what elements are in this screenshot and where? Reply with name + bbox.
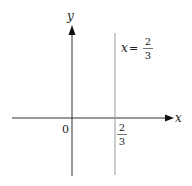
coordinate-diagram: x y 0 x = 2 3 2 3	[0, 0, 192, 186]
x-axis-label: x	[175, 111, 182, 125]
x-axis-arrow-icon	[165, 115, 174, 122]
x-tick-numerator: 2	[119, 122, 125, 133]
equation-lhs: x	[121, 41, 128, 55]
y-axis-arrow-icon	[69, 25, 76, 35]
origin-label: 0	[62, 123, 69, 136]
x-tick-denominator: 3	[119, 136, 125, 147]
equation-numerator: 2	[145, 36, 151, 47]
equation-denominator: 3	[145, 50, 151, 61]
y-axis-label: y	[66, 9, 74, 23]
equation-equals: =	[129, 42, 138, 55]
